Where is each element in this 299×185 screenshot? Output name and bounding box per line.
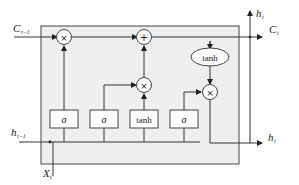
label-h-prev: h t−1 xyxy=(11,126,26,139)
output-gate: σ xyxy=(170,110,198,128)
svg-text:t: t xyxy=(50,174,52,180)
svg-text:tanh: tanh xyxy=(202,53,218,63)
svg-text:×: × xyxy=(206,88,214,98)
svg-text:t: t xyxy=(274,138,276,144)
svg-text:tanh: tanh xyxy=(136,115,152,125)
lstm-diagram: σ σ tanh σ × + × × tanh xyxy=(0,0,299,185)
label-c-out: C t xyxy=(269,23,279,36)
svg-text:C: C xyxy=(269,23,277,35)
cell-add-node: + xyxy=(137,30,152,45)
svg-text:t: t xyxy=(262,14,264,20)
label-x: X t xyxy=(42,167,52,180)
forget-gate: σ xyxy=(50,110,78,128)
label-h-right: h t xyxy=(268,131,276,144)
svg-text:t−1: t−1 xyxy=(17,133,26,139)
cell-tanh-node: tanh xyxy=(191,48,229,66)
svg-text:t: t xyxy=(277,30,279,36)
input-gate: σ xyxy=(90,110,118,128)
output-multiply-node: × xyxy=(203,85,218,100)
forget-multiply-node: × xyxy=(57,30,72,45)
label-c-prev: C t−1 xyxy=(13,22,30,35)
input-multiply-node: × xyxy=(137,78,152,93)
svg-text:+: + xyxy=(140,32,148,43)
svg-text:t−1: t−1 xyxy=(21,29,30,35)
svg-text:C: C xyxy=(13,22,21,34)
svg-text:×: × xyxy=(60,33,68,43)
candidate-tanh: tanh xyxy=(130,110,158,128)
label-h-top: h t xyxy=(256,7,264,20)
svg-text:×: × xyxy=(140,81,148,91)
